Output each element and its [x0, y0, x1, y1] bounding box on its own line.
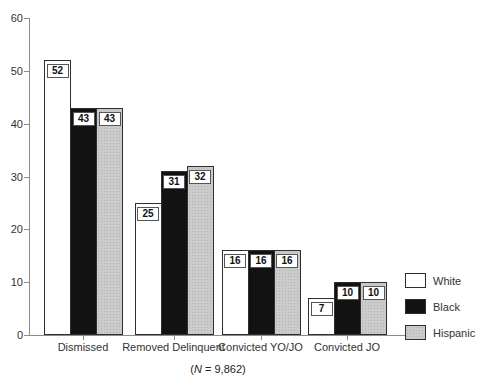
- x-axis: [29, 335, 406, 336]
- sample-size-caption: (N = 9,862): [30, 363, 406, 375]
- value-label: 10: [337, 286, 359, 300]
- y-tick-label: 60: [0, 11, 23, 25]
- legend-swatch-white: [405, 273, 426, 288]
- y-tick-label: 10: [0, 275, 23, 289]
- bar-black-removed-delinquent: [161, 171, 188, 335]
- y-tick-mark: [24, 124, 29, 125]
- value-label: 16: [250, 254, 272, 268]
- value-label: 7: [311, 302, 333, 316]
- bar-hispanic-dismissed: [96, 108, 123, 335]
- y-tick-label: 40: [0, 117, 23, 131]
- y-tick-mark: [24, 282, 29, 283]
- y-tick-label: 0: [0, 328, 23, 342]
- x-tick-mark: [83, 336, 84, 340]
- value-label: 31: [163, 175, 185, 189]
- y-tick-mark: [24, 229, 29, 230]
- x-tick-mark: [261, 336, 262, 340]
- legend-label-hispanic: Hispanic: [433, 326, 475, 340]
- legend-label-black: Black: [433, 300, 460, 314]
- y-tick-label: 30: [0, 170, 23, 184]
- y-tick-label: 20: [0, 222, 23, 236]
- y-tick-mark: [24, 177, 29, 178]
- value-label: 43: [99, 112, 121, 126]
- bar-white-dismissed: [44, 60, 71, 335]
- value-label: 16: [224, 254, 246, 268]
- bar-white-removed-delinquent: [135, 203, 162, 335]
- x-tick-mark: [174, 336, 175, 340]
- y-axis: [29, 18, 30, 336]
- value-label: 25: [137, 207, 159, 221]
- value-label: 32: [189, 170, 211, 184]
- bar-hispanic-removed-delinquent: [187, 166, 214, 335]
- y-tick-label: 50: [0, 64, 23, 78]
- caption-rest: = 9,862): [202, 363, 246, 375]
- x-tick-mark: [347, 336, 348, 340]
- legend-label-white: White: [433, 274, 461, 288]
- bar-chart-figure: 0102030405060524343Dismissed253132Remove…: [0, 0, 477, 391]
- y-tick-mark: [24, 71, 29, 72]
- legend-swatch-hispanic: [405, 325, 426, 340]
- value-label: 43: [73, 112, 95, 126]
- category-label: Convicted JO: [282, 341, 412, 354]
- caption-n: N: [194, 363, 202, 375]
- y-tick-mark: [24, 18, 29, 19]
- value-label: 10: [363, 286, 385, 300]
- bar-black-dismissed: [70, 108, 97, 335]
- value-label: 52: [47, 64, 69, 78]
- y-tick-mark: [24, 335, 29, 336]
- legend-swatch-black: [405, 299, 426, 314]
- value-label: 16: [276, 254, 298, 268]
